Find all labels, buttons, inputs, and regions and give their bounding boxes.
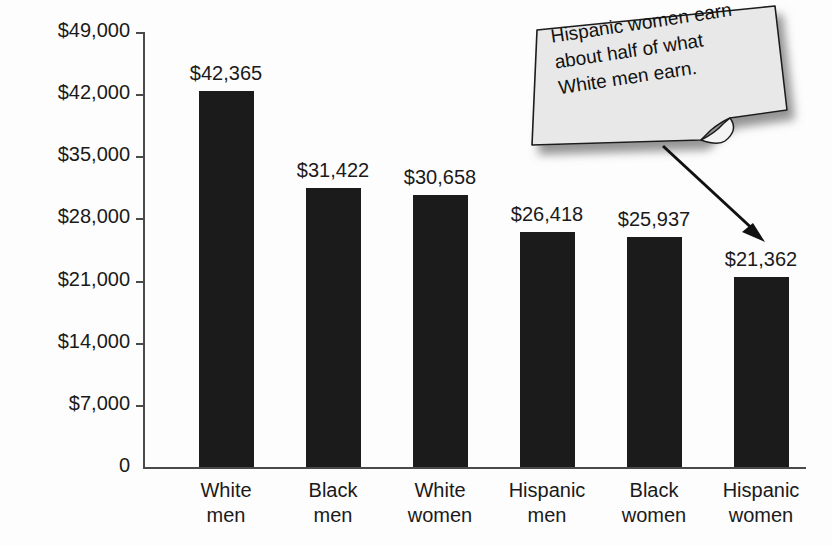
- y-tick-label: $35,000: [58, 143, 130, 166]
- bar-value-label: $31,422: [297, 159, 369, 182]
- bar-group: $30,658: [413, 195, 468, 467]
- bar: [734, 277, 789, 467]
- y-tick-label: 0: [119, 454, 130, 477]
- bar-value-label: $25,937: [618, 208, 690, 231]
- category-label: Hispanic women: [696, 478, 826, 528]
- y-tick-mark: [136, 218, 144, 220]
- y-tick-mark: [136, 405, 144, 407]
- callout-note: Hispanic women earnabout half of whatWhi…: [525, 2, 793, 144]
- y-tick-label: $7,000: [69, 392, 130, 415]
- bar-value-label: $26,418: [511, 203, 583, 226]
- y-tick-mark: [136, 94, 144, 96]
- y-tick-label: $49,000: [58, 19, 130, 42]
- y-axis-line: [143, 32, 145, 469]
- chart-figure: Median income 0$7,000$14,000$21,000$28,0…: [0, 0, 832, 546]
- y-tick-label: $14,000: [58, 330, 130, 353]
- bar-group: $21,362: [734, 277, 789, 467]
- y-tick-label: $28,000: [58, 205, 130, 228]
- bar-group: $25,937: [627, 237, 682, 467]
- y-tick-mark: [136, 32, 144, 34]
- bar: [199, 91, 254, 467]
- bar-value-label: $42,365: [190, 62, 262, 85]
- bar: [627, 237, 682, 467]
- bar-group: $26,418: [520, 232, 575, 467]
- y-tick-mark: [136, 281, 144, 283]
- y-tick-mark: [136, 156, 144, 158]
- x-axis-line: [143, 467, 806, 469]
- y-tick-label: $42,000: [58, 81, 130, 104]
- y-tick-mark: [136, 343, 144, 345]
- bar-value-label: $30,658: [404, 166, 476, 189]
- bar-group: $42,365: [199, 91, 254, 467]
- bar-group: $31,422: [306, 188, 361, 467]
- y-tick-label: $21,000: [58, 268, 130, 291]
- bar-value-label: $21,362: [725, 248, 797, 271]
- bar: [306, 188, 361, 467]
- bar: [413, 195, 468, 467]
- bar: [520, 232, 575, 467]
